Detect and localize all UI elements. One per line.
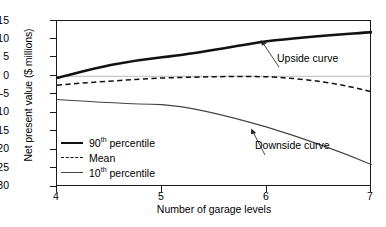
legend-swatch-thick-line (61, 138, 83, 148)
y-tick-label: 10 (0, 33, 9, 43)
annotation-label-downside: Downside curve (255, 139, 330, 151)
x-tick-label: 4 (36, 190, 76, 202)
series-line-mean (57, 77, 372, 92)
legend-label-10th-percentile: 10th percentile (89, 166, 155, 179)
x-axis-title: Number of garage levels (56, 203, 372, 215)
legend-item-mean: Mean (61, 150, 155, 165)
y-tick-label: 5 (0, 51, 9, 61)
x-tick-label: 6 (246, 190, 286, 202)
plot-area: 90th percentile Mean 10th percentile (56, 20, 371, 186)
y-tick-label: –10 (0, 106, 9, 116)
legend-label-mean: Mean (89, 151, 115, 164)
y-axis-title: Net present value ($ millions) (22, 0, 36, 190)
y-tick-label: –20 (0, 143, 9, 153)
y-tick-label: –25 (0, 162, 9, 172)
y-tick-label: –15 (0, 125, 9, 135)
annotation-label-upside: Upside curve (277, 52, 338, 64)
chart-legend: 90th percentile Mean 10th percentile (61, 135, 155, 180)
y-tick-label: –5 (0, 88, 9, 98)
legend-label-90th-percentile: 90th percentile (89, 136, 155, 149)
y-tick-label: –30 (0, 180, 9, 190)
y-tick-label: 15 (0, 15, 9, 25)
legend-item-10th-percentile: 10th percentile (61, 165, 155, 180)
y-tick-label: 0 (0, 70, 9, 80)
legend-item-90th-percentile: 90th percentile (61, 135, 155, 150)
legend-swatch-thin-line (61, 168, 83, 178)
x-tick-label: 7 (350, 190, 386, 202)
chart-figure: Net present value ($ millions) 15 10 5 0… (0, 0, 386, 227)
x-tick-label: 5 (141, 190, 181, 202)
legend-swatch-dashed-line (61, 153, 83, 163)
